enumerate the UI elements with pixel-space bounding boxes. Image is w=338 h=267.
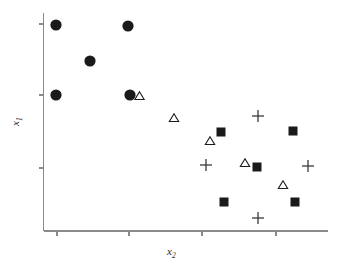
axes-group	[44, 13, 329, 231]
data-point-plus-16	[252, 110, 264, 122]
data-point-triangle-7	[205, 137, 214, 145]
y-axis-label-base: x	[9, 121, 21, 126]
data-point-circle-2	[84, 55, 95, 66]
data-point-triangle-6	[169, 114, 178, 122]
data-point-plus-18	[252, 212, 264, 224]
data-markers-group	[50, 19, 314, 224]
data-point-triangle-8	[240, 159, 249, 167]
data-point-plus-17	[302, 160, 314, 172]
data-point-circle-0	[50, 19, 61, 30]
data-point-square-10	[217, 128, 226, 137]
data-point-square-12	[289, 127, 298, 136]
data-point-circle-1	[122, 20, 133, 31]
y-axis-label: x1	[9, 117, 24, 126]
plot-canvas	[0, 0, 338, 267]
data-point-square-11	[253, 163, 262, 172]
data-point-circle-4	[124, 89, 135, 100]
scatter-plot-figure: x1 x2	[0, 0, 338, 267]
data-point-triangle-9	[278, 181, 287, 189]
data-point-square-13	[220, 198, 229, 207]
data-point-triangle-5	[135, 92, 144, 100]
x-axis-label-subscript: 2	[172, 251, 176, 260]
data-point-square-14	[291, 198, 300, 207]
axis-ticks-group	[39, 24, 277, 236]
data-point-plus-15	[200, 159, 212, 171]
y-axis-label-subscript: 1	[15, 117, 24, 121]
x-axis-label: x2	[167, 245, 176, 260]
data-point-circle-3	[50, 89, 61, 100]
